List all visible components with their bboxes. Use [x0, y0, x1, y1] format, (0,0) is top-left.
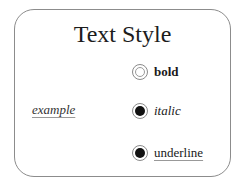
- bold-label[interactable]: bold: [154, 64, 179, 80]
- panel-title: Text Style: [15, 19, 230, 49]
- radio-filled-icon: [135, 148, 145, 158]
- example-preview-text: example: [32, 102, 75, 118]
- italic-label[interactable]: italic: [154, 103, 181, 119]
- radio-filled-icon: [135, 106, 145, 116]
- bold-radio[interactable]: [132, 64, 148, 80]
- italic-radio[interactable]: [132, 103, 148, 119]
- underline-label[interactable]: underline: [154, 145, 203, 161]
- radio-empty-icon: [135, 67, 145, 77]
- underline-radio[interactable]: [132, 145, 148, 161]
